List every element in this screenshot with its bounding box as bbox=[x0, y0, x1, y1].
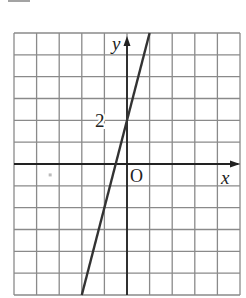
origin-label: O bbox=[130, 166, 143, 186]
scan-artifact-dot bbox=[49, 173, 52, 176]
x-axis-label: x bbox=[220, 167, 230, 188]
y-axis-arrow-icon bbox=[124, 36, 131, 46]
y-axis-label: y bbox=[110, 33, 121, 54]
coordinate-figure: y x O 2 bbox=[0, 0, 246, 298]
x-axis-arrow-icon bbox=[230, 161, 240, 168]
axes bbox=[14, 36, 240, 295]
y-tick-label-2: 2 bbox=[95, 110, 105, 131]
